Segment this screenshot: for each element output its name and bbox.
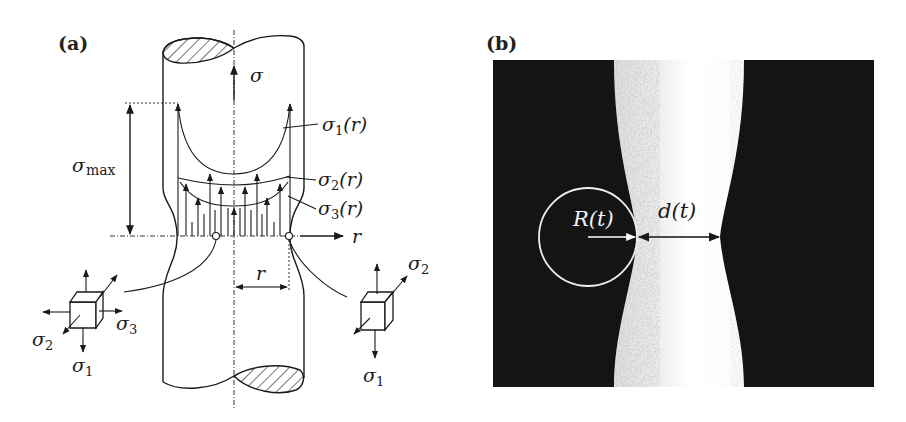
right-stress-element: σ2 σ1 bbox=[354, 252, 429, 389]
surface-point-marker bbox=[286, 233, 293, 240]
panel-b-label: (b) bbox=[486, 32, 517, 54]
applied-stress-label: σ bbox=[250, 64, 264, 86]
svg-text:σ2: σ2 bbox=[408, 252, 429, 277]
sigma1-r-label: σ1(r) bbox=[322, 113, 367, 138]
sigma2-r-label: σ2(r) bbox=[318, 168, 363, 193]
bottom-hatched-section bbox=[234, 366, 303, 393]
r-dim-label: r bbox=[256, 262, 267, 284]
sigma3-r-label: σ3(r) bbox=[318, 197, 363, 222]
distance-label: d(t) bbox=[658, 199, 696, 223]
svg-text:σ2: σ2 bbox=[32, 328, 53, 353]
inner-point-marker bbox=[213, 233, 220, 240]
sigma-max-symbol: σmax bbox=[72, 154, 116, 178]
stress-distribution-arrows bbox=[186, 174, 280, 236]
panel-a: (a) r σ σmax bbox=[32, 30, 429, 410]
panel-b: (b) R(t) d(t) bbox=[486, 32, 874, 387]
radius-label: R(t) bbox=[572, 207, 614, 231]
top-hatched-section bbox=[163, 38, 234, 63]
figure-canvas: (a) r σ σmax bbox=[0, 0, 906, 422]
svg-text:σ1: σ1 bbox=[72, 354, 93, 379]
left-stress-element: σ2 σ3 σ1 bbox=[32, 270, 137, 379]
panel-a-label: (a) bbox=[58, 32, 88, 54]
r-axis-label: r bbox=[352, 225, 363, 247]
sigma1-leader bbox=[283, 124, 318, 128]
svg-text:σ3: σ3 bbox=[116, 312, 137, 337]
svg-text:σ1: σ1 bbox=[363, 364, 384, 389]
